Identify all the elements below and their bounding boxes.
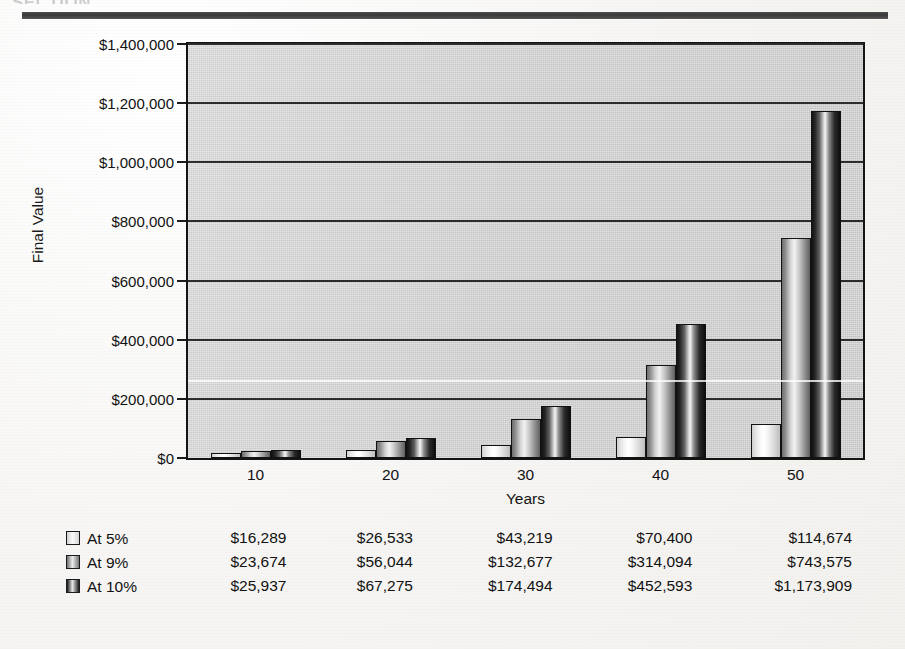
table-row: At 9%$23,674$56,044$132,677$314,094$743,… (60, 552, 878, 576)
y-axis-tick-label: $200,000 (40, 390, 174, 407)
x-axis-title: Years (186, 490, 865, 508)
bar (481, 445, 511, 458)
legend-entry: At 10% (60, 576, 186, 600)
y-axis-tick-label: $0 (40, 450, 174, 467)
bar (646, 365, 676, 458)
x-axis-tick-label: 30 (517, 466, 534, 484)
bar (751, 424, 781, 458)
table-cell-value: $132,677 (439, 552, 579, 576)
legend-swatch-icon (66, 555, 80, 569)
bar-series-layer (188, 44, 863, 458)
table-cell-value: $174,494 (439, 576, 579, 600)
y-axis-tick-mark (177, 220, 186, 222)
table-cell-value: $67,275 (312, 576, 438, 600)
bar (241, 451, 271, 458)
table-cell-value: $743,575 (718, 552, 878, 576)
header-divider-rule (22, 12, 888, 19)
table-cell-value: $43,219 (439, 528, 579, 552)
bar (676, 324, 706, 458)
legend-swatch-icon (66, 531, 80, 545)
bar (211, 453, 241, 458)
y-axis-tick-mark (177, 161, 186, 163)
table-cell-value: $452,593 (579, 576, 719, 600)
y-axis-tick-labels: $0$200,000$400,000$600,000$800,000$1,000… (40, 28, 174, 460)
y-axis-tick-mark (177, 102, 186, 104)
bar (811, 111, 841, 458)
plot-area (186, 42, 865, 460)
table-cell-value: $26,533 (312, 528, 438, 552)
bar (541, 406, 571, 458)
bar (406, 438, 436, 458)
x-axis-tick-labels: 1020304050 (186, 466, 865, 490)
y-axis-tick-mark (177, 43, 186, 45)
bar (781, 238, 811, 458)
y-axis-tick-label: $800,000 (40, 213, 174, 230)
legend-swatch-icon (66, 579, 80, 593)
legend-label: At 10% (87, 578, 137, 595)
bar (511, 419, 541, 458)
bar (616, 437, 646, 458)
document-page: SECTION Final Value $0$200,000$400,000$6… (0, 0, 905, 649)
table-cell-value: $114,674 (718, 528, 878, 552)
table-row: At 5%$16,289$26,533$43,219$70,400$114,67… (60, 528, 878, 552)
y-axis-tick-label: $1,200,000 (40, 95, 174, 112)
table-cell-value: $70,400 (579, 528, 719, 552)
bar (346, 450, 376, 458)
y-axis-tick-mark (177, 280, 186, 282)
table-cell-value: $23,674 (186, 552, 312, 576)
y-axis-tick-label: $1,400,000 (40, 36, 174, 53)
table-cell-value: $25,937 (186, 576, 312, 600)
x-axis-tick-label: 40 (652, 466, 669, 484)
bar-chart: Final Value $0$200,000$400,000$600,000$8… (0, 28, 905, 498)
y-axis-tick-label: $400,000 (40, 331, 174, 348)
legend-entry: At 5% (60, 528, 186, 552)
table-cell-value: $56,044 (312, 552, 438, 576)
table-cell-value: $1,173,909 (718, 576, 878, 600)
y-axis-tick-mark (177, 339, 186, 341)
table-cell-value: $16,289 (186, 528, 312, 552)
x-axis-tick-label: 50 (787, 466, 804, 484)
y-axis-tick-mark (177, 457, 186, 459)
legend-entry: At 9% (60, 552, 186, 576)
legend-label: At 5% (87, 530, 128, 547)
bar (376, 441, 406, 458)
x-axis-tick-label: 20 (382, 466, 399, 484)
table-row: At 10%$25,937$67,275$174,494$452,593$1,1… (60, 576, 878, 600)
chart-data-table: At 5%$16,289$26,533$43,219$70,400$114,67… (60, 528, 878, 600)
x-axis-tick-label: 10 (247, 466, 264, 484)
y-axis-tick-label: $1,000,000 (40, 154, 174, 171)
y-axis-tick-mark (177, 398, 186, 400)
bar (271, 450, 301, 458)
y-axis-tick-label: $600,000 (40, 272, 174, 289)
page-header-ghost-text: SECTION (12, 0, 91, 4)
legend-label: At 9% (87, 554, 128, 571)
table-cell-value: $314,094 (579, 552, 719, 576)
